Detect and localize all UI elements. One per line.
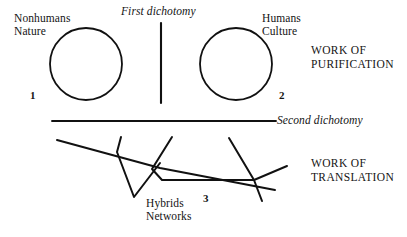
diagram-canvas: Nonhumans Nature Humans Culture First di…: [0, 0, 407, 237]
label-humans-culture: Humans Culture: [262, 12, 301, 38]
label-first-dichotomy: First dichotomy: [121, 5, 196, 18]
label-number-one: 1: [30, 89, 36, 101]
nonhumans-nature-circle: [50, 28, 122, 100]
label-number-two: 2: [279, 89, 285, 101]
humans-culture-circle: [200, 28, 272, 100]
label-work-of-purification: WORK OF PURIFICATION: [311, 44, 394, 71]
network-fan-tail: [254, 180, 262, 201]
network-fan-node: [229, 138, 287, 180]
label-nonhumans-nature: Nonhumans Nature: [14, 12, 70, 38]
label-work-of-translation: WORK OF TRANSLATION: [311, 157, 394, 184]
label-number-three: 3: [203, 192, 209, 204]
label-hybrids-networks: Hybrids Networks: [146, 197, 192, 223]
label-second-dichotomy: Second dichotomy: [277, 114, 363, 127]
